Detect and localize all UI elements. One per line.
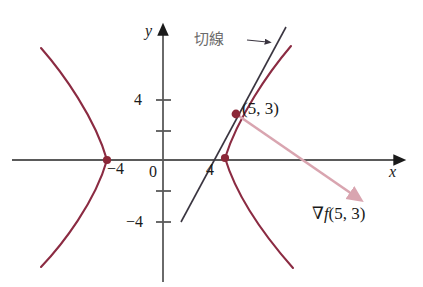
y-tick-label-4: 4 <box>134 91 142 109</box>
y-tick-label-neg4: −4 <box>126 213 143 231</box>
gradient-vector <box>236 114 352 194</box>
point-marker-5-3 <box>232 110 241 119</box>
x-tick-label-neg4: −4 <box>107 160 124 178</box>
x-axis-label: x <box>389 163 396 181</box>
tangent-line-label: 切線 <box>194 27 224 48</box>
point-label-5-3: (5, 3) <box>242 99 279 119</box>
y-axis-label: y <box>145 22 152 40</box>
math-figure: y x 0 −4 4 4 −4 切線 (5, 3) ∇f(5, 3) <box>0 0 423 287</box>
point-marker-vertex-right <box>221 154 229 162</box>
nabla-icon: ∇ <box>312 204 324 223</box>
hyperbola-left-branch <box>41 48 107 267</box>
tangent-label-leader-arrow <box>247 40 267 42</box>
origin-label: 0 <box>149 163 157 181</box>
hyperbola-right-branch <box>225 46 293 268</box>
tangent-line <box>181 27 286 222</box>
x-tick-label-4: 4 <box>206 161 214 179</box>
gradient-vector-label: ∇f(5, 3) <box>312 203 365 224</box>
gradient-arguments: (5, 3) <box>329 204 366 223</box>
